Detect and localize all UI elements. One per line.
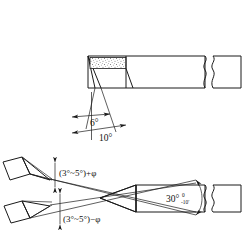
side-elevation-view: 6° 10° <box>72 56 241 143</box>
angle-30-label: 30° <box>166 194 180 204</box>
carbide-insert-stipple-top <box>90 58 126 69</box>
angle-10-label: 10° <box>99 133 113 143</box>
tolerance-lower-label: -10′ <box>181 199 189 205</box>
tip-detail-wedge-lower <box>4 201 52 223</box>
tolerance-upper-label: 0 <box>182 192 185 198</box>
braze-seam-line <box>126 69 133 89</box>
angle-6-label: 6° <box>90 118 99 128</box>
lower-angle-label: (3°~5°)−φ <box>63 214 100 224</box>
tip-detail-wedge-upper <box>3 157 52 180</box>
technical-drawing-canvas: 6° 10° <box>0 0 248 239</box>
upper-angle-dimension: (3°~5°)+φ <box>55 163 96 187</box>
plan-top-view: 30° 0 -10′ (3°~5°)+φ (3°~5°)−φ <box>3 157 241 224</box>
engineering-drawing-svg: 6° 10° <box>0 0 248 239</box>
upper-angle-label: (3°~5°)+φ <box>59 168 96 178</box>
plan-end-block <box>213 185 241 212</box>
angle-dimensions-side-view: 6° 10° <box>72 88 126 143</box>
shank-end-block <box>213 56 241 88</box>
